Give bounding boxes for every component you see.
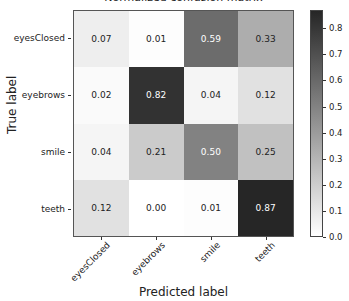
y-tick-label: eyesClosed — [14, 33, 71, 43]
x-tick-label: smile — [198, 240, 222, 264]
heatmap-cell: 0.02 — [74, 67, 129, 123]
heatmap-cell: 0.07 — [74, 11, 129, 67]
heatmap-cell: 0.01 — [129, 11, 184, 67]
x-tick-mark — [101, 237, 102, 240]
heatmap-cell: 0.00 — [129, 180, 184, 236]
x-axis-label: Predicted label — [73, 285, 294, 299]
colorbar — [310, 10, 323, 237]
x-tick-label: eyesClosed — [68, 240, 111, 283]
x-tick-mark — [211, 237, 212, 240]
colorbar-tick-label: 0.1 — [323, 206, 343, 216]
heatmap-cell: 0.59 — [184, 11, 239, 67]
colorbar-tick-label: 0.0 — [323, 232, 343, 242]
colorbar-tick-label: 0.3 — [323, 154, 343, 164]
heatmap-cell: 0.21 — [129, 124, 184, 180]
colorbar-tick-label: 0.8 — [323, 23, 343, 33]
heatmap-grid: 0.070.010.590.330.020.820.040.120.040.21… — [73, 10, 294, 237]
colorbar-tick-label: 0.6 — [323, 75, 343, 85]
heatmap-cell: 0.50 — [184, 124, 239, 180]
x-tick-label: eyebrows — [129, 240, 167, 278]
y-tick-label: smile — [41, 147, 71, 157]
heatmap-cell: 0.82 — [129, 67, 184, 123]
heatmap-cell: 0.33 — [238, 11, 293, 67]
colorbar-tick-label: 0.7 — [323, 49, 343, 59]
x-tick-mark — [266, 237, 267, 240]
colorbar-tick-label: 0.4 — [323, 128, 343, 138]
x-tick-label: teeth — [254, 240, 278, 264]
heatmap-cell: 0.01 — [184, 180, 239, 236]
heatmap-cell: 0.12 — [238, 67, 293, 123]
colorbar-tick-label: 0.5 — [323, 102, 343, 112]
colorbar-tick-label: 0.2 — [323, 180, 343, 190]
y-tick-label: eyebrows — [22, 90, 71, 100]
y-tick-label: teeth — [41, 204, 71, 214]
heatmap-cell: 0.87 — [238, 180, 293, 236]
y-axis-label: True label — [5, 114, 19, 134]
heatmap-cell: 0.12 — [74, 180, 129, 236]
heatmap-cell: 0.04 — [184, 67, 239, 123]
heatmap-cell: 0.25 — [238, 124, 293, 180]
chart-title: Normalized confusion matrix — [73, 0, 294, 4]
heatmap-cell: 0.04 — [74, 124, 129, 180]
x-tick-mark — [156, 237, 157, 240]
